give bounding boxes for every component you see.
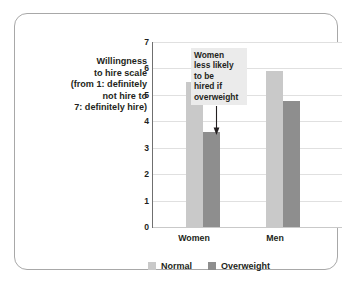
x-tick-label-men: Men — [247, 233, 303, 243]
gridline — [152, 148, 342, 149]
legend-item-normal[interactable]: Normal — [148, 261, 192, 271]
caption-line: Willingness — [25, 56, 147, 68]
legend: Normal Overweight — [148, 261, 270, 271]
y-tick-label: 4 — [133, 116, 149, 126]
y-axis-tick-labels: 7 6 5 4 3 2 1 0 — [131, 42, 149, 227]
y-tick-label: 0 — [133, 222, 149, 232]
gridline — [152, 95, 342, 96]
gridline — [152, 68, 342, 69]
gridline — [152, 201, 342, 202]
legend-swatch-overweight — [208, 262, 216, 270]
bar-women-overweight[interactable] — [203, 132, 220, 227]
caption-line: (from 1: definitely — [25, 79, 147, 91]
gridline — [152, 174, 342, 175]
bar-men-normal[interactable] — [266, 71, 283, 227]
bar-men-overweight[interactable] — [283, 101, 300, 227]
plot-area — [152, 42, 342, 227]
y-tick-label: 3 — [133, 143, 149, 153]
y-tick-label: 2 — [133, 169, 149, 179]
annotation-line: overweight — [194, 92, 244, 102]
annotation-line: to be — [194, 71, 244, 81]
y-axis-line — [152, 42, 153, 228]
caption-line: not hire to — [25, 91, 147, 103]
caption-line: to hire scale — [25, 68, 147, 80]
x-axis-line — [152, 227, 342, 228]
annotation-callout: Women less likely to be hired if overwei… — [191, 48, 247, 105]
y-tick-label: 1 — [133, 196, 149, 206]
gridline — [152, 42, 342, 43]
legend-swatch-normal — [148, 262, 156, 270]
down-arrow-icon — [212, 106, 221, 136]
annotation-line: hired if — [194, 81, 244, 91]
legend-label-overweight: Overweight — [221, 261, 270, 271]
annotation-line: less likely — [194, 60, 244, 70]
plot-background — [152, 42, 342, 227]
figure-frame: Willingness to hire scale (from 1: defin… — [14, 13, 338, 270]
y-axis-caption: Willingness to hire scale (from 1: defin… — [25, 56, 147, 114]
legend-label-normal: Normal — [161, 261, 192, 271]
x-tick-label-women: Women — [166, 233, 222, 243]
annotation-line: Women — [194, 50, 244, 60]
caption-line: 7: definitely hire) — [25, 102, 147, 114]
legend-item-overweight[interactable]: Overweight — [208, 261, 270, 271]
y-tick-label: 5 — [133, 90, 149, 100]
gridline — [152, 121, 342, 122]
y-tick-label: 7 — [133, 37, 149, 47]
y-tick-label: 6 — [133, 63, 149, 73]
